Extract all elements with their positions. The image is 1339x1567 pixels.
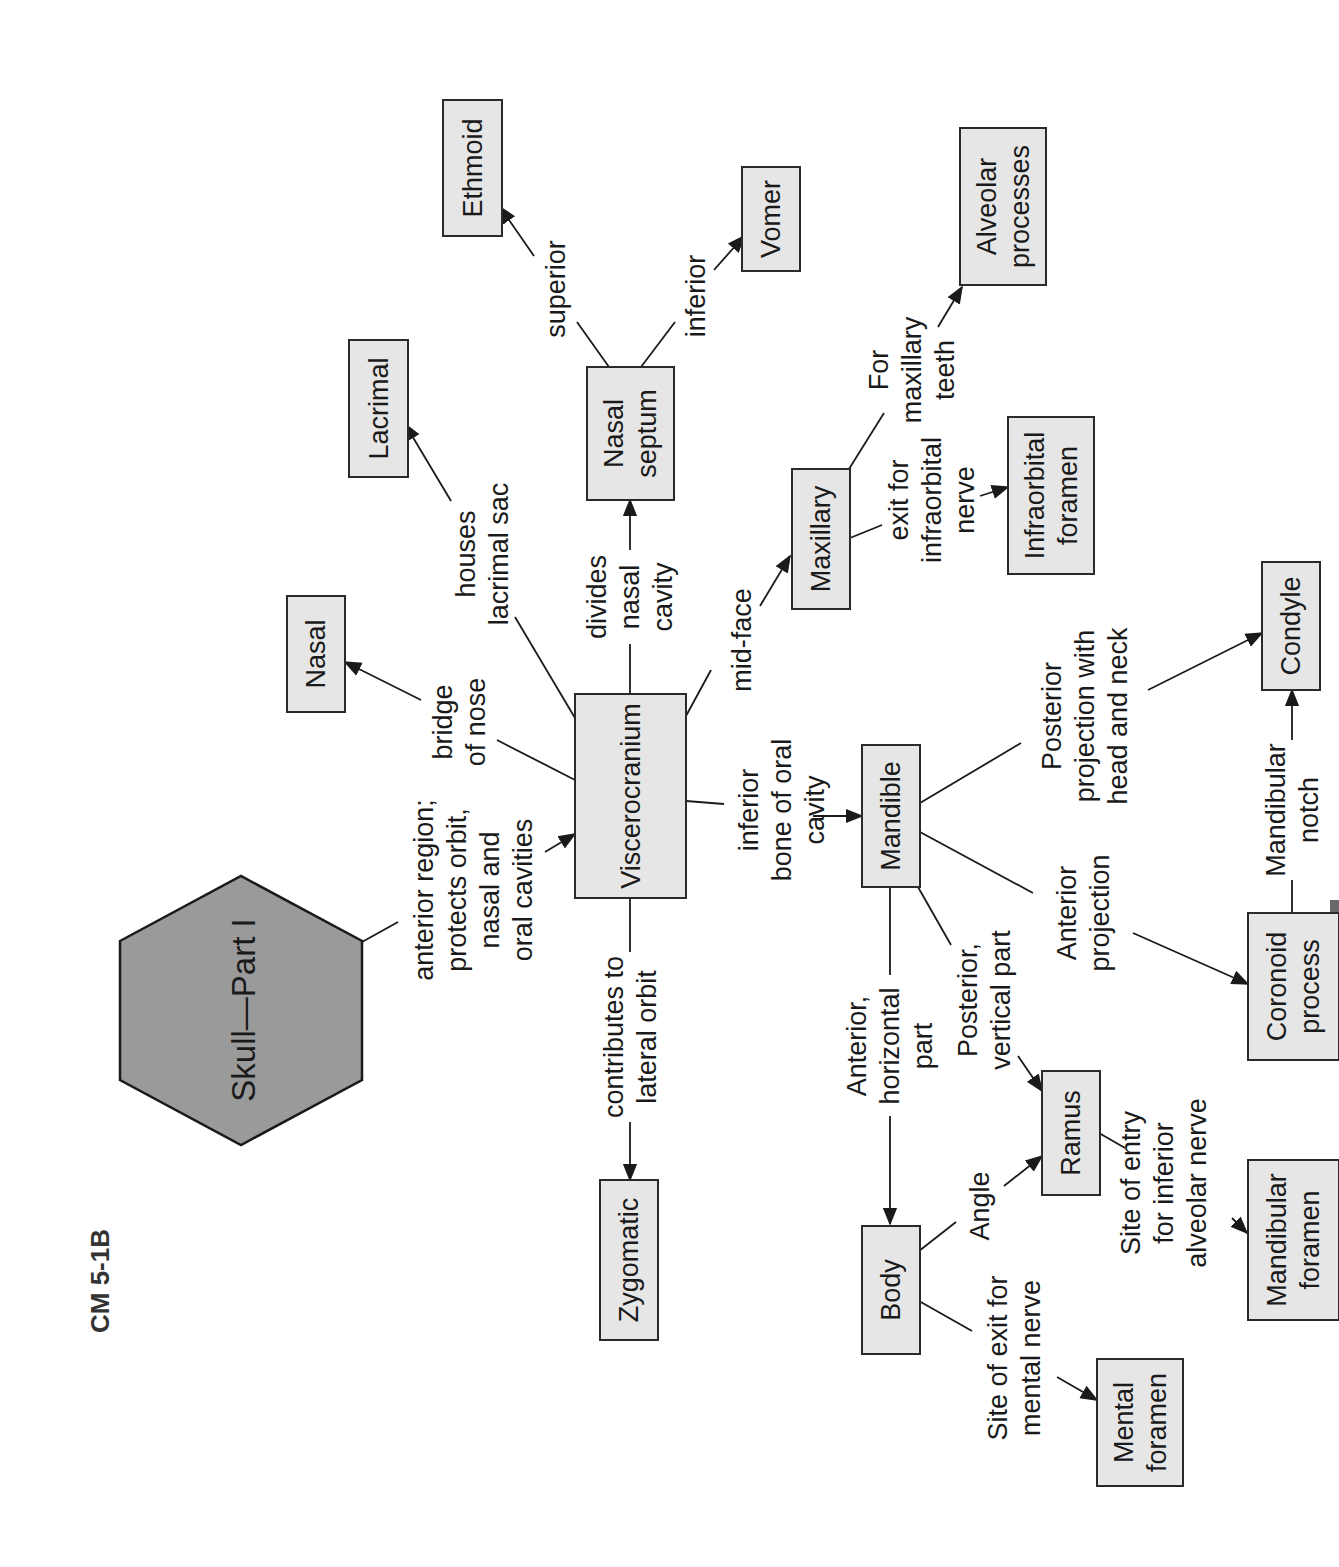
node-label: Body	[876, 1259, 906, 1321]
edge-label-mandible-ramus: Posterior,vertical part	[953, 930, 1016, 1070]
root-label: Skull—Part I	[225, 918, 262, 1101]
edge-label-septum-vomer: inferior	[681, 255, 711, 338]
node-ethmoid[interactable]: Ethmoid	[443, 100, 502, 236]
node-alveolar-processes[interactable]: Alveolarprocesses	[960, 128, 1046, 285]
edge-label-body-mental-foramen: Site of exit formental nerve	[983, 1275, 1046, 1440]
edge-label-body-ramus: Angle	[965, 1171, 995, 1240]
edge-label-visc-nasal: bridgeof nose	[428, 678, 491, 767]
node-nasal[interactable]: Nasal	[287, 596, 345, 712]
node-label: Mandible	[876, 761, 906, 871]
node-maxillary[interactable]: Maxillary	[792, 469, 850, 609]
figure-id-label: CM 5-1B	[85, 1229, 115, 1333]
edge-label-maxillary-alveolar: Formaxillaryteeth	[864, 316, 960, 423]
edge-label-skull-viscerocranium: anterior region;protects orbit,nasal and…	[409, 799, 538, 981]
node-label: Ethmoid	[458, 118, 488, 217]
node-viscerocranium[interactable]: Viscerocranium	[575, 694, 686, 898]
node-label: Nasal	[301, 619, 331, 688]
node-coronoid-process[interactable]: Coronoidprocess	[1248, 913, 1339, 1060]
node-label: Viscerocranium	[616, 703, 646, 889]
node-label: Lacrimal	[364, 357, 394, 459]
node-label: Maxillary	[806, 485, 836, 592]
edge-label-ramus-mandibular-foramen: Site of entryfor inferioralveolar nerve	[1116, 1098, 1212, 1268]
edge-label-mandible-coronoid: Anteriorprojection	[1052, 854, 1115, 971]
edge-label-visc-lacrimal: houseslacrimal sac	[451, 483, 514, 626]
edge-label-maxillary-infraorbital: exit forinfraorbitalnerve	[884, 437, 980, 563]
edge-label-coronoid-condyle: Mandibularnotch	[1261, 743, 1324, 877]
node-mandibular-foramen[interactable]: Mandibularforamen	[1248, 1160, 1339, 1320]
node-label: Vomer	[756, 180, 786, 258]
node-mandible[interactable]: Mandible	[862, 745, 920, 887]
node-label: Condyle	[1276, 576, 1306, 675]
edge-label-visc-mandible: inferiorbone of oralcavity	[734, 739, 830, 882]
concept-map: Skull—Part I CM 5-1B ViscerocraniumNasal…	[0, 0, 1339, 1567]
edge-label-visc-maxillary: mid-face	[727, 588, 757, 692]
node-lacrimal[interactable]: Lacrimal	[349, 340, 408, 477]
node-vomer[interactable]: Vomer	[742, 167, 800, 271]
node-condyle[interactable]: Condyle	[1262, 562, 1320, 690]
edge-label-visc-zygomatic: contributes tolateral orbit	[599, 956, 662, 1118]
node-zygomatic[interactable]: Zygomatic	[600, 1180, 658, 1340]
node-infraorbital-foramen[interactable]: Infraorbitalforamen	[1008, 417, 1094, 574]
node-label: Zygomatic	[614, 1198, 644, 1323]
edge-label-septum-ethmoid: superior	[541, 240, 571, 338]
node-mental-foramen[interactable]: Mentalforamen	[1097, 1359, 1183, 1486]
edge-label-mandible-body: Anterior,horizontalpart	[842, 987, 938, 1104]
edge-label-mandible-condyle: Posteriorprojection withhead and neck	[1037, 627, 1133, 805]
node-nasal-septum[interactable]: Nasalseptum	[587, 367, 674, 500]
node-label: Ramus	[1056, 1090, 1086, 1176]
node-body[interactable]: Body	[862, 1226, 920, 1354]
node-ramus[interactable]: Ramus	[1042, 1071, 1100, 1195]
root-node-skull[interactable]: Skull—Part I	[120, 876, 362, 1145]
edge-label-visc-septum: dividesnasalcavity	[582, 555, 678, 639]
